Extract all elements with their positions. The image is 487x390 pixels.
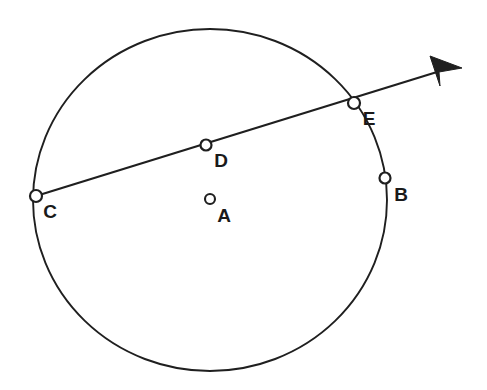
- ray-arrowhead-icon: [430, 56, 462, 86]
- point-label-d: D: [214, 150, 228, 171]
- point-label-c: C: [43, 201, 57, 222]
- geometry-figure: A B C D E: [0, 0, 487, 390]
- point-label-b: B: [394, 184, 408, 205]
- point-label-e: E: [363, 108, 376, 129]
- secant-ray-line: [36, 72, 437, 196]
- point-marker-b: [380, 173, 391, 184]
- point-label-a: A: [217, 205, 231, 226]
- geometry-canvas: A B C D E: [0, 0, 487, 390]
- point-marker-a: [205, 194, 215, 204]
- point-marker-d: [201, 140, 212, 151]
- point-marker-e: [348, 97, 360, 109]
- point-marker-c: [30, 190, 42, 202]
